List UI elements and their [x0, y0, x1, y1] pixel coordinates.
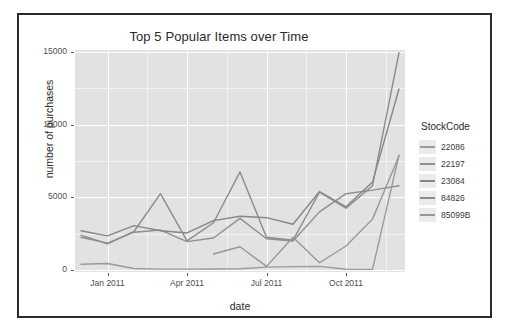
legend-item-label: 85099B	[441, 210, 470, 220]
y-axis-title: number of purchases	[43, 54, 55, 204]
legend-item-22197[interactable]: 22197	[419, 156, 499, 172]
series-line-85099B	[214, 156, 400, 266]
legend-swatch-icon	[419, 191, 436, 205]
y-tick-mark	[71, 52, 74, 53]
legend-item-84826[interactable]: 84826	[419, 190, 499, 206]
x-tick-label: Jul 2011	[232, 278, 302, 288]
legend-swatch-icon	[419, 208, 436, 222]
series-line-84826	[81, 53, 399, 244]
y-tick-mark	[71, 125, 74, 126]
legend-title: StockCode	[421, 121, 499, 132]
legend-item-23084[interactable]: 23084	[419, 173, 499, 189]
legend-item-22086[interactable]: 22086	[419, 139, 499, 155]
legend-item-label: 22197	[441, 159, 465, 169]
x-tick-mark	[346, 273, 347, 276]
legend-swatch-icon	[419, 174, 436, 188]
x-tick-label: Apr 2011	[152, 278, 222, 288]
x-tick-label: Jan 2011	[73, 278, 143, 288]
x-tick-label: Oct 2011	[311, 278, 381, 288]
legend-items: 2208622197230848482685099B	[419, 139, 499, 223]
figure-frame: Top 5 Popular Items over Time 1500010000…	[17, 13, 492, 318]
legend-swatch-icon	[419, 157, 436, 171]
legend-item-label: 22086	[441, 142, 465, 152]
x-tick-mark	[108, 273, 109, 276]
legend-item-label: 23084	[441, 176, 465, 186]
legend-item-label: 84826	[441, 193, 465, 203]
chart-screenshot: Top 5 Popular Items over Time 1500010000…	[0, 0, 509, 336]
legend-item-85099B[interactable]: 85099B	[419, 207, 499, 223]
legend: StockCode 2208622197230848482685099B	[419, 121, 499, 224]
y-tick-mark	[71, 270, 74, 271]
plot-panel	[75, 50, 405, 272]
page-title: Top 5 Popular Items over Time	[19, 29, 419, 44]
x-axis-title: date	[75, 300, 405, 312]
x-tick-mark	[267, 273, 268, 276]
x-tick-mark	[187, 273, 188, 276]
series-line-23084	[81, 89, 399, 236]
series-lines	[75, 50, 405, 272]
legend-swatch-icon	[419, 140, 436, 154]
y-tick-label: 0	[21, 264, 67, 274]
y-tick-mark	[71, 197, 74, 198]
